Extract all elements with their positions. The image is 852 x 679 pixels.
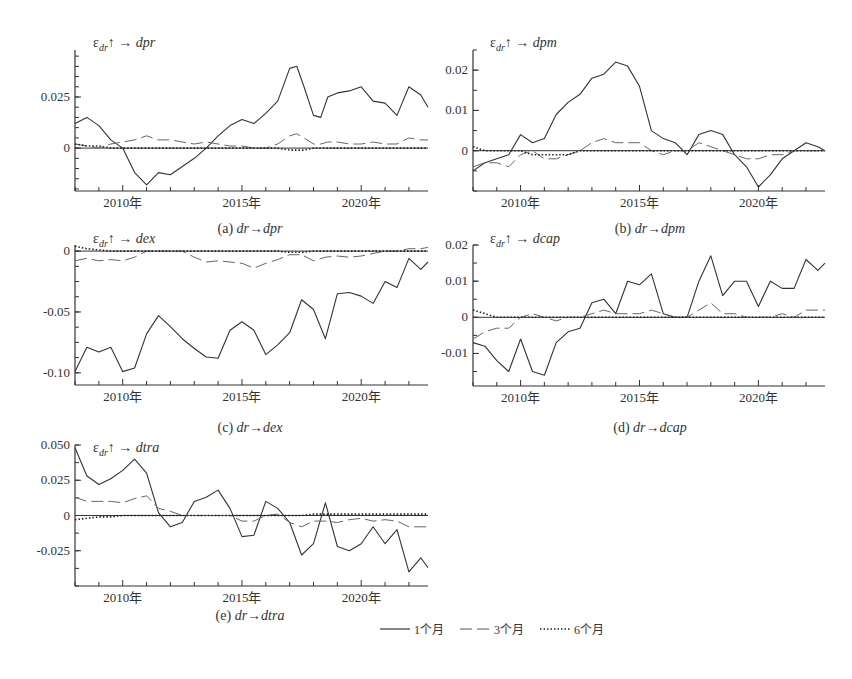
y-tick-label: 0: [462, 143, 469, 158]
y-tick-label: -0.01: [441, 345, 468, 360]
chart-canvas: 2010年2015年2020年00.025εdr↑ → dpr(a) dr→dp…: [0, 0, 852, 679]
panel-c: 2010年2015年2020年0-0.05-0.10εdr↑ → dex(c) …: [43, 231, 428, 436]
y-tick-label: 0.01: [445, 102, 468, 117]
panel-e: 2010年2015年2020年0.0500.0250-0.025εdr↑ → d…: [36, 437, 428, 624]
legend-item-6m: 6个月: [540, 620, 604, 638]
y-tick-label: 0.025: [41, 472, 70, 487]
panel-caption: (a) dr→dpr: [218, 221, 283, 237]
panel-caption: (e) dr→dtra: [216, 608, 285, 624]
legend-item-1m: 1个月: [380, 620, 444, 638]
x-tick-label: 2015年: [222, 590, 261, 605]
y-tick-label: 0: [64, 243, 71, 258]
series-1个月: [75, 448, 428, 572]
series-1个月: [75, 258, 428, 371]
series-6个月: [75, 144, 428, 150]
x-tick-label: 2015年: [620, 390, 659, 405]
panel-a: 2010年2015年2020年00.025εdr↑ → dpr(a) dr→dp…: [41, 35, 428, 237]
series-3个月: [473, 303, 825, 339]
y-tick-label: 0.01: [445, 273, 468, 288]
figure: 2010年2015年2020年00.025εdr↑ → dpr(a) dr→dp…: [0, 0, 852, 679]
legend-label-3m: 3个月: [494, 620, 524, 638]
panel-title: εdr↑ → dcap: [490, 231, 560, 249]
x-tick-label: 2020年: [739, 195, 778, 210]
panel-title: εdr↑ → dpr: [93, 35, 156, 53]
legend-label-6m: 6个月: [574, 620, 604, 638]
panel-title: εdr↑ → dpm: [490, 35, 557, 53]
panel-b: 2010年2015年2020年00.010.02εdr↑ → dpm(b) dr…: [445, 35, 825, 237]
y-tick-label: 0: [64, 508, 71, 523]
y-tick-label: 0.050: [41, 437, 70, 452]
y-tick-label: 0: [462, 309, 469, 324]
series-1个月: [473, 62, 825, 187]
series-3个月: [75, 496, 428, 527]
dashed-line-icon: [460, 625, 490, 633]
y-tick-label: 0.02: [445, 237, 468, 252]
dotted-line-icon: [540, 625, 570, 633]
panel-caption: (d) dr→dcap: [613, 420, 687, 436]
legend-item-3m: 3个月: [460, 620, 524, 638]
y-tick-label: -0.10: [43, 365, 70, 380]
y-tick-label: 0: [64, 140, 71, 155]
x-tick-label: 2020年: [342, 195, 381, 210]
panel-caption: (b) dr→dpm: [615, 221, 685, 237]
y-tick-label: 0.025: [41, 89, 70, 104]
x-tick-label: 2020年: [342, 389, 381, 404]
solid-line-icon: [380, 625, 410, 633]
panel-d: 2010年2015年2020年0.020.010-0.01εdr↑ → dcap…: [441, 231, 825, 436]
series-3个月: [75, 134, 428, 148]
x-tick-label: 2010年: [103, 590, 142, 605]
x-tick-label: 2010年: [501, 390, 540, 405]
y-tick-label: 0.02: [445, 62, 468, 77]
series-1个月: [75, 66, 428, 185]
legend: 1个月 3个月 6个月: [380, 620, 604, 638]
x-tick-label: 2010年: [103, 195, 142, 210]
panel-caption: (c) dr→dex: [218, 420, 284, 436]
legend-label-1m: 1个月: [414, 620, 444, 638]
series-6个月: [75, 514, 428, 520]
x-tick-label: 2020年: [342, 590, 381, 605]
x-tick-label: 2010年: [103, 389, 142, 404]
x-tick-label: 2015年: [222, 195, 261, 210]
y-tick-label: -0.05: [43, 304, 70, 319]
panel-title: εdr↑ → dtra: [93, 440, 159, 458]
y-tick-label: -0.025: [36, 543, 70, 558]
x-tick-label: 2020年: [739, 390, 778, 405]
x-tick-label: 2010年: [501, 195, 540, 210]
x-tick-label: 2015年: [620, 195, 659, 210]
x-tick-label: 2015年: [222, 389, 261, 404]
panel-title: εdr↑ → dex: [93, 231, 156, 249]
